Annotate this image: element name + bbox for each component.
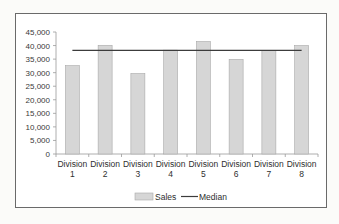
x-category-label: 1 (70, 169, 75, 179)
chart-legend: Sales Median (135, 192, 227, 202)
sales-bar (262, 50, 276, 154)
sales-bar (229, 59, 243, 154)
y-tick-label: 30,000 (26, 69, 51, 78)
x-category-label: Division (188, 159, 218, 169)
sales-bar (131, 73, 145, 154)
x-category-label: Division (221, 159, 251, 169)
x-category-label: 2 (103, 169, 108, 179)
y-tick-label: 15,000 (26, 109, 51, 118)
legend-sales-swatch (135, 193, 153, 200)
x-category-label: Division (254, 159, 284, 169)
y-axis: 05,00010,00015,00020,00025,00030,00035,0… (26, 28, 56, 159)
x-category-label: Division (287, 159, 317, 169)
x-category-label: 5 (201, 169, 206, 179)
y-tick-label: 40,000 (26, 42, 51, 51)
y-tick-label: 35,000 (26, 55, 51, 64)
bar-chart: 05,00010,00015,00020,00025,00030,00035,0… (0, 0, 339, 224)
y-tick-label: 20,000 (26, 96, 51, 105)
x-category-label: Division (57, 159, 87, 169)
y-tick-label: 25,000 (26, 82, 51, 91)
sales-bar (98, 45, 112, 154)
x-category-label: 7 (267, 169, 272, 179)
x-category-label: 3 (136, 169, 141, 179)
x-category-label: 6 (234, 169, 239, 179)
x-category-label: Division (123, 159, 153, 169)
x-category-label: 4 (168, 169, 173, 179)
y-tick-label: 0 (46, 150, 51, 159)
legend-sales-label: Sales (155, 192, 176, 202)
sales-bar (164, 50, 178, 154)
x-category-label: Division (90, 159, 120, 169)
y-tick-label: 10,000 (26, 123, 51, 132)
sales-bars (65, 41, 308, 154)
legend-median-label: Median (199, 192, 227, 202)
x-category-label: 8 (299, 169, 304, 179)
y-tick-label: 45,000 (26, 28, 51, 37)
x-category-label: Division (156, 159, 186, 169)
sales-bar (295, 46, 309, 154)
sales-bar (196, 41, 210, 154)
sales-bar (65, 66, 79, 154)
y-tick-label: 5,000 (30, 136, 51, 145)
x-axis: Division1Division2Division3Division4Divi… (56, 154, 318, 179)
